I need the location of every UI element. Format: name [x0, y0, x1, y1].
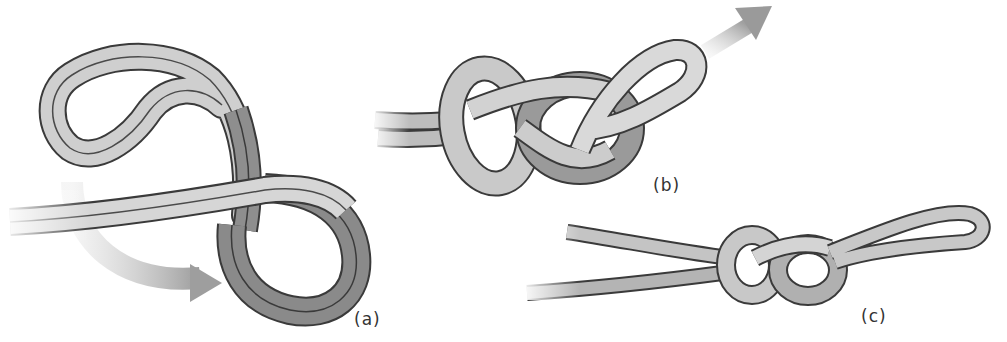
panel-a-label: (a) [354, 309, 381, 329]
panel-b-rope [370, 6, 772, 190]
knot-drawing [0, 0, 1007, 342]
knot-illustration: (a) (b) (c) [0, 0, 1007, 342]
panel-c-label: (c) [861, 306, 887, 326]
panel-a-rope [0, 57, 356, 312]
panel-b-label: (b) [653, 175, 680, 195]
panel-c-rope [520, 213, 983, 300]
